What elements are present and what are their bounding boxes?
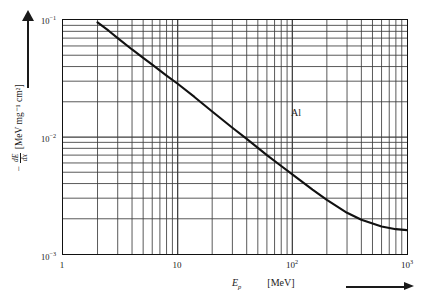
- x-tick-mantissa: 10: [286, 260, 295, 270]
- y-tick-exponent: −1: [49, 14, 56, 21]
- x-tick-label-1: 1: [42, 259, 82, 270]
- x-axis-symbol-subscript: p: [238, 283, 241, 290]
- x-tick-exponent: 3: [410, 258, 413, 265]
- x-axis-arrow-head-icon: [404, 282, 414, 290]
- x-tick-exponent: 2: [295, 258, 298, 265]
- plot-area: Al: [62, 19, 408, 255]
- annotation-al: Al: [291, 107, 301, 118]
- y-axis-minus-sign: −: [14, 166, 24, 171]
- x-tick-label-1000: 103: [387, 259, 426, 270]
- y-tick-label-1e-1: 10−1: [22, 15, 56, 25]
- y-axis-fraction-denominator: dx: [21, 153, 29, 163]
- figure-root: − dE dx [MeV mg⁻¹ cm²] 10−1 10−2 10−3 Al…: [0, 0, 426, 304]
- stopping-power-curve: [63, 20, 407, 254]
- y-axis-label: − dE dx [MeV mg⁻¹ cm²]: [12, 10, 32, 246]
- y-tick-exponent: −2: [49, 132, 56, 139]
- x-tick-mantissa: 10: [401, 260, 410, 270]
- x-axis-arrow-shaft-icon: [346, 286, 408, 288]
- y-axis-derivative-fraction: dE dx: [12, 153, 29, 163]
- x-tick-label-100: 102: [272, 259, 312, 270]
- x-axis-label: Ep[MeV]: [232, 277, 295, 290]
- y-tick-exponent: −3: [49, 250, 56, 257]
- x-axis-unit: [MeV]: [267, 277, 294, 288]
- y-tick-label-1e-2: 10−2: [22, 133, 56, 143]
- x-tick-mantissa: 10: [173, 260, 182, 270]
- x-tick-mantissa: 1: [60, 260, 65, 270]
- x-tick-label-10: 10: [157, 259, 197, 270]
